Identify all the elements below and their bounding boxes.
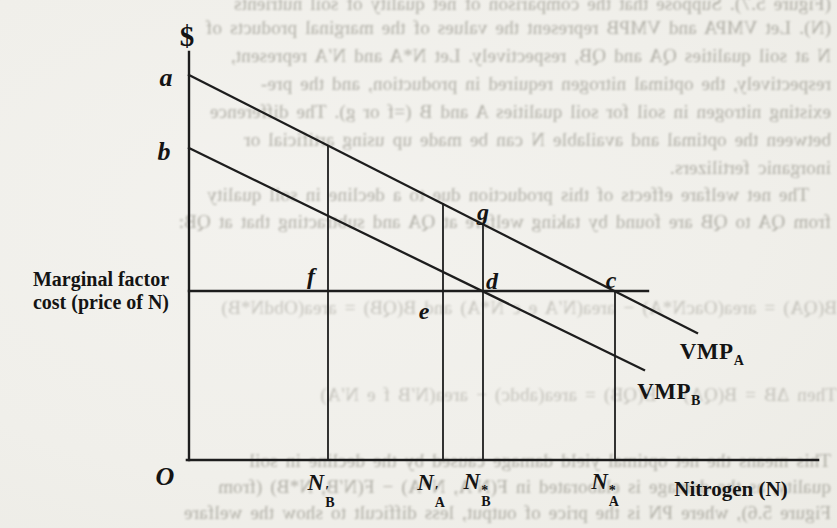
point-label-c: c (606, 267, 617, 294)
diagram-canvas (0, 0, 837, 528)
vmp-a-text: VMP (680, 339, 734, 364)
mfc-label-line2: cost (price of N) (33, 291, 169, 314)
x-tick-n-star-b: N*B (464, 469, 491, 507)
x-tick-n-prime-a: N′A (417, 470, 445, 508)
point-label-e: e (419, 298, 430, 325)
mfc-label-line1: Marginal factor (33, 268, 169, 291)
vmp-b-subscript: B (691, 393, 701, 408)
tick-base: N (591, 469, 608, 494)
tick-sub: A (609, 496, 619, 507)
vmp-a-subscript: A (734, 353, 745, 368)
point-label-b: b (158, 137, 171, 167)
scanned-page: (Figure 5.7). Suppose that the compariso… (0, 0, 837, 528)
tick-base: N (308, 470, 325, 495)
tick-sub: B (481, 496, 490, 507)
vmp-b-curve (189, 148, 644, 370)
tick-sub: A (435, 497, 445, 508)
point-label-d: d (486, 268, 498, 295)
curve-label-vmp-b: VMPB (637, 379, 701, 409)
x-tick-n-star-a: N*A (591, 469, 619, 507)
tick-base: N (417, 470, 434, 495)
point-label-g: g (477, 199, 489, 226)
point-label-f: f (307, 263, 315, 290)
x-tick-n-prime-b: N′B (308, 470, 335, 508)
point-label-a: a (160, 63, 173, 93)
vmp-b-text: VMP (637, 379, 691, 404)
marginal-factor-cost-label: Marginal factor cost (price of N) (33, 268, 169, 314)
tick-sub: B (325, 497, 334, 508)
x-axis-title: Nitrogen (N) (674, 477, 787, 502)
curve-label-vmp-a: VMPA (680, 339, 745, 369)
tick-base: N (464, 469, 481, 494)
origin-label: O (156, 462, 175, 492)
y-axis-dollar-label: $ (180, 20, 195, 53)
